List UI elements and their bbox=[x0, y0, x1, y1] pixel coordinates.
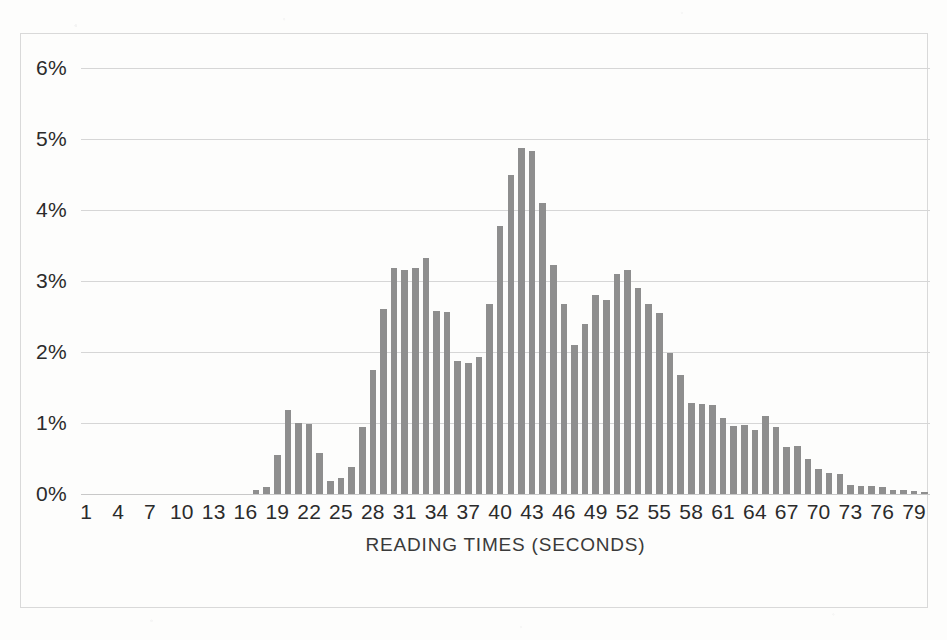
x-axis-tick-label: 37 bbox=[456, 500, 480, 524]
bar bbox=[327, 481, 334, 494]
bar bbox=[263, 487, 270, 494]
bar bbox=[518, 148, 525, 494]
y-axis-tick-label: 1% bbox=[36, 411, 67, 435]
y-axis-tick-label: 4% bbox=[36, 198, 67, 222]
bar bbox=[401, 270, 408, 494]
bar bbox=[783, 447, 790, 494]
x-axis-tick-label: 25 bbox=[329, 500, 353, 524]
bar bbox=[582, 324, 589, 494]
x-axis-tick-label: 46 bbox=[552, 500, 576, 524]
x-axis-tick-label: 1 bbox=[80, 500, 92, 524]
x-axis-tick-label: 13 bbox=[202, 500, 226, 524]
bar bbox=[635, 288, 642, 494]
x-axis-tick-labels: 1471013161922252831343740434649525558616… bbox=[81, 494, 930, 528]
bar bbox=[529, 151, 536, 494]
x-axis-tick-label: 31 bbox=[393, 500, 417, 524]
bar bbox=[433, 311, 440, 494]
bar bbox=[348, 467, 355, 494]
bar bbox=[741, 425, 748, 494]
x-axis-tick-label: 28 bbox=[361, 500, 385, 524]
bar bbox=[465, 363, 472, 494]
x-axis-tick-label: 79 bbox=[902, 500, 926, 524]
bar bbox=[306, 424, 313, 494]
bar bbox=[826, 473, 833, 494]
bar bbox=[285, 410, 292, 494]
bar bbox=[486, 304, 493, 494]
bar bbox=[667, 353, 674, 494]
y-axis-tick-label: 2% bbox=[36, 340, 67, 364]
bar bbox=[614, 274, 621, 494]
x-axis-tick-label: 73 bbox=[839, 500, 863, 524]
x-axis-tick-label: 61 bbox=[711, 500, 735, 524]
screenshot-root: 0%1%2%3%4%5%6% 1471013161922252831343740… bbox=[0, 0, 947, 640]
bar bbox=[295, 423, 302, 494]
bar bbox=[709, 405, 716, 494]
bar bbox=[561, 304, 568, 494]
x-axis-tick-label: 55 bbox=[647, 500, 671, 524]
bar bbox=[847, 485, 854, 494]
bar bbox=[274, 455, 281, 494]
bar bbox=[794, 446, 801, 494]
bar bbox=[359, 427, 366, 494]
x-axis-tick-label: 70 bbox=[807, 500, 831, 524]
x-axis-tick-label: 49 bbox=[584, 500, 608, 524]
bar bbox=[497, 226, 504, 494]
x-axis-tick-label: 10 bbox=[170, 500, 194, 524]
bar bbox=[868, 486, 875, 494]
y-axis-tick-label: 0% bbox=[36, 482, 67, 506]
bar bbox=[444, 312, 451, 494]
x-axis-tick-label: 16 bbox=[234, 500, 258, 524]
bar bbox=[380, 309, 387, 494]
bar bbox=[815, 469, 822, 494]
x-axis-tick-label: 76 bbox=[870, 500, 894, 524]
bar bbox=[805, 459, 812, 495]
bar bbox=[837, 474, 844, 494]
x-axis-tick-label: 40 bbox=[488, 500, 512, 524]
bar bbox=[370, 370, 377, 494]
x-axis-tick-label: 22 bbox=[297, 500, 321, 524]
bar bbox=[720, 418, 727, 494]
bar bbox=[423, 258, 430, 494]
chart-frame: 0%1%2%3%4%5%6% 1471013161922252831343740… bbox=[20, 33, 928, 608]
bar bbox=[592, 295, 599, 494]
bar bbox=[508, 175, 515, 495]
x-axis-title: READING TIMES (SECONDS) bbox=[81, 534, 930, 556]
bar bbox=[730, 426, 737, 494]
x-axis-tick-label: 58 bbox=[679, 500, 703, 524]
bar bbox=[879, 487, 886, 494]
bar bbox=[762, 416, 769, 494]
x-axis-tick-label: 34 bbox=[425, 500, 449, 524]
plot-area: 0%1%2%3%4%5%6% 1471013161922252831343740… bbox=[81, 68, 930, 494]
bar bbox=[773, 427, 780, 494]
y-axis-tick-label: 5% bbox=[36, 127, 67, 151]
bar bbox=[858, 486, 865, 494]
bar bbox=[454, 361, 461, 494]
x-axis-tick-label: 67 bbox=[775, 500, 799, 524]
bar bbox=[412, 268, 419, 494]
x-axis-tick-label: 19 bbox=[265, 500, 289, 524]
x-axis-tick-label: 64 bbox=[743, 500, 767, 524]
bar bbox=[656, 313, 663, 494]
x-axis-tick-label: 52 bbox=[616, 500, 640, 524]
bar bbox=[550, 265, 557, 494]
bar bbox=[645, 304, 652, 494]
bar bbox=[624, 270, 631, 494]
x-axis-tick-label: 7 bbox=[144, 500, 156, 524]
x-axis-tick-label: 4 bbox=[112, 500, 124, 524]
bar bbox=[752, 430, 759, 494]
bar bbox=[677, 375, 684, 494]
bar bbox=[603, 300, 610, 494]
bar bbox=[688, 403, 695, 494]
bar bbox=[699, 404, 706, 494]
bar bbox=[476, 357, 483, 494]
bar bbox=[571, 345, 578, 494]
y-axis-tick-label: 6% bbox=[36, 56, 67, 80]
bar bbox=[391, 268, 398, 494]
y-axis-tick-label: 3% bbox=[36, 269, 67, 293]
bar bbox=[316, 453, 323, 494]
bars-group bbox=[81, 68, 930, 494]
x-axis-tick-label: 43 bbox=[520, 500, 544, 524]
bar bbox=[338, 478, 345, 494]
bar bbox=[539, 203, 546, 494]
